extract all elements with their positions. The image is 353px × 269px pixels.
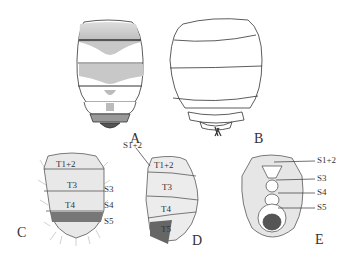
c-label-t3: T3 xyxy=(67,181,77,190)
panel-b-drawing xyxy=(170,19,262,136)
c-label-s5: S5 xyxy=(104,217,114,226)
c-label-t12: T1+2 xyxy=(56,160,76,169)
panel-a-drawing xyxy=(77,20,143,128)
d-label-t3: T3 xyxy=(162,183,172,192)
d-label-t5: T5 xyxy=(161,225,171,234)
e-label-s4: S4 xyxy=(317,188,327,197)
c-label-t4: T4 xyxy=(65,201,75,210)
d-label-t12: T1+2 xyxy=(154,161,174,170)
c-label-s3: S3 xyxy=(104,185,114,194)
panel-label-e: E xyxy=(315,233,324,247)
panel-e-drawing xyxy=(242,155,315,237)
panel-label-b: B xyxy=(254,132,263,146)
e-label-s3: S3 xyxy=(317,174,327,183)
panel-label-c: C xyxy=(17,226,26,240)
figure-drawing xyxy=(0,0,353,269)
c-label-s4: S4 xyxy=(104,201,114,210)
e-label-s12: S1+2 xyxy=(317,156,336,165)
e-label-s5: S5 xyxy=(317,203,327,212)
d-label-s12: S1+2 xyxy=(123,141,142,150)
d-label-t4: T4 xyxy=(161,205,171,214)
panel-label-d: D xyxy=(192,234,202,248)
